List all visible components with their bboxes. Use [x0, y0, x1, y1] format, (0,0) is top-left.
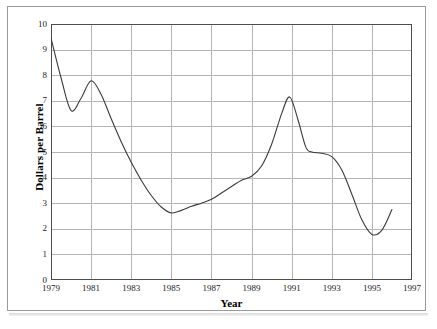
x-axis-tick-label: 1997	[392, 283, 432, 293]
y-axis-tick-label: 5	[25, 148, 47, 157]
plot-svg	[51, 24, 412, 280]
y-axis-tick-labels: 012345678910	[23, 24, 47, 280]
x-axis-tick-label: 1981	[71, 283, 111, 293]
y-axis-tick-label: 2	[25, 224, 47, 233]
y-axis-tick-label: 10	[25, 20, 47, 29]
line-chart-figure: Dollars per Barrel 012345678910 19791981…	[0, 0, 437, 329]
y-axis-tick-label: 4	[25, 173, 47, 182]
x-axis-tick-labels: 1979198119831985198719891991199319951997	[51, 283, 412, 297]
data-series-line	[51, 38, 392, 235]
x-axis-tick-label: 1993	[312, 283, 352, 293]
horizontal-gridlines	[51, 51, 412, 255]
y-axis-tick-label: 6	[25, 122, 47, 131]
x-axis-tick-label: 1985	[151, 283, 191, 293]
y-axis-tick-label: 8	[25, 71, 47, 80]
x-axis-tick-label: 1983	[111, 283, 151, 293]
x-axis-title: Year	[51, 297, 412, 309]
x-axis-tick-label: 1979	[31, 283, 71, 293]
y-axis-tick-label: 3	[25, 199, 47, 208]
x-axis-tick-label: 1991	[272, 283, 312, 293]
y-axis-tick-label: 9	[25, 45, 47, 54]
y-axis-tick-label: 7	[25, 96, 47, 105]
plot-area	[51, 24, 412, 280]
x-axis-tick-label: 1987	[191, 283, 231, 293]
y-axis-tick-label: 1	[25, 250, 47, 259]
x-axis-tick-label: 1989	[232, 283, 272, 293]
x-axis-tick-label: 1995	[352, 283, 392, 293]
